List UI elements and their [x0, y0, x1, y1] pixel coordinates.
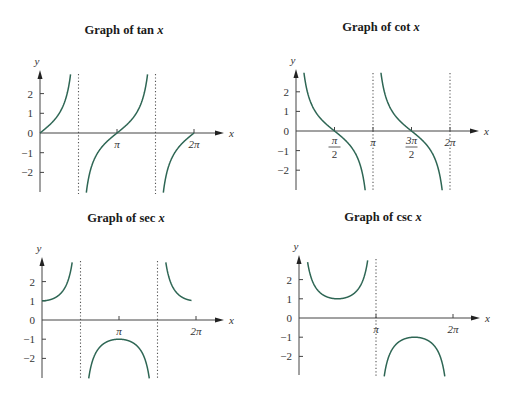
y-tick-label: 0 [284, 125, 290, 137]
y-tick-label: −1 [280, 331, 292, 343]
y-axis-arrow-icon [38, 70, 43, 79]
y-tick-label: 0 [30, 314, 36, 326]
x-axis-label: x [484, 312, 490, 324]
y-tick-label: −2 [277, 164, 289, 176]
y-tick-label: −1 [277, 145, 289, 157]
x-tick-label: 2π [444, 136, 456, 148]
y-tick-label: −2 [280, 350, 292, 362]
x-tick-label: π [114, 138, 120, 150]
graph-csc-plot: xy210−1−2π2π [280, 240, 490, 377]
y-axis-arrow-icon [297, 255, 302, 264]
x-axis-label: x [483, 125, 489, 137]
x-tick-label: 2π [188, 138, 200, 150]
x-tick-label: π [370, 136, 376, 148]
y-tick-label: 2 [284, 86, 290, 98]
y-axis-arrow-icon [40, 257, 45, 266]
graph-tan-plot: xy210−1−2π2π [21, 55, 234, 194]
x-tick-label: 3π [405, 134, 418, 146]
x-tick-label: π [373, 323, 379, 335]
x-axis-label: x [228, 127, 234, 139]
x-tick-label: 2π [190, 325, 202, 337]
y-tick-label: −2 [23, 352, 35, 364]
y-tick-label: 2 [28, 88, 34, 100]
y-tick-label: −1 [23, 333, 35, 345]
x-axis-arrow-icon [215, 318, 224, 323]
y-axis-label: y [36, 242, 42, 254]
graph-cot-plot: xy210−1−2π2π3π22π [277, 54, 489, 192]
y-tick-label: 2 [30, 276, 36, 288]
x-axis-label: x [228, 314, 234, 326]
y-tick-label: 1 [28, 107, 34, 119]
x-axis-arrow-icon [215, 131, 224, 136]
y-axis-arrow-icon [294, 69, 299, 78]
y-tick-label: 0 [287, 312, 293, 324]
y-axis-label: y [293, 240, 299, 252]
curve-tan [40, 74, 194, 192]
y-tick-label: 1 [284, 105, 290, 117]
trig-graphs-canvas: xy210−1−2π2πxy210−1−2π2π3π22πxy210−1−2π2… [0, 0, 512, 401]
y-tick-label: 1 [287, 293, 293, 305]
x-axis-arrow-icon [471, 316, 480, 321]
y-tick-label: 0 [28, 127, 34, 139]
y-tick-label: 2 [287, 274, 293, 286]
x-tick-label: π [332, 134, 338, 146]
x-axis-arrow-icon [470, 129, 479, 134]
y-tick-label: −2 [21, 166, 33, 178]
x-tick-label: 2 [409, 148, 415, 160]
x-tick-label: 2π [447, 323, 459, 335]
y-axis-label: y [34, 55, 40, 67]
graph-sec-plot: xy210−1−2π2π [23, 242, 234, 380]
y-axis-label: y [290, 54, 296, 66]
x-tick-label: 2 [332, 148, 338, 160]
x-tick-label: π [116, 325, 122, 337]
y-tick-label: 1 [30, 295, 36, 307]
y-tick-label: −1 [21, 147, 33, 159]
